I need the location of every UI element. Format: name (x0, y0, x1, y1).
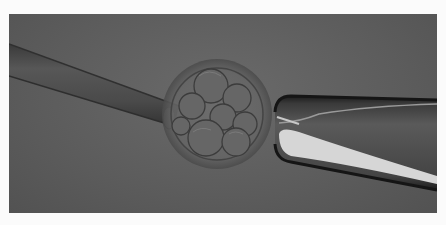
microscopy-image (9, 14, 437, 213)
microscopy-scene (9, 14, 437, 213)
holding-pipette (275, 96, 437, 190)
embryo (162, 59, 272, 169)
biopsy-pipette (9, 44, 179, 129)
